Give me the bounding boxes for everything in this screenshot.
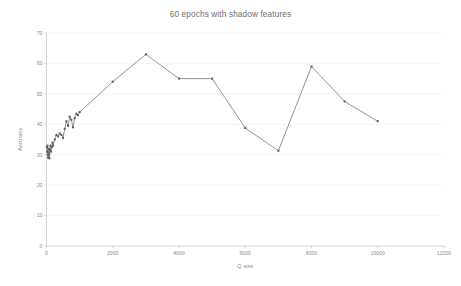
y-axis-tick-label: 20 bbox=[37, 182, 43, 188]
y-axis-ticks-group: 010203040506070 bbox=[37, 30, 47, 249]
data-point-marker bbox=[48, 154, 50, 156]
data-point-marker bbox=[72, 126, 74, 128]
y-axis-tick-label: 60 bbox=[37, 60, 43, 66]
data-point-marker bbox=[70, 119, 72, 121]
x-axis-tick-label: 0 bbox=[45, 250, 48, 256]
y-axis-tick-label: 30 bbox=[37, 152, 43, 158]
data-point-marker bbox=[377, 120, 379, 122]
x-axis-ticks-group: 020004000600080001000012000 bbox=[45, 246, 451, 256]
data-series-line bbox=[47, 54, 378, 158]
data-point-marker bbox=[52, 145, 54, 147]
gridlines-group bbox=[47, 33, 445, 216]
data-point-marker bbox=[112, 81, 114, 83]
data-point-marker bbox=[57, 135, 59, 137]
data-point-marker bbox=[50, 151, 52, 153]
data-point-marker bbox=[69, 116, 71, 118]
data-point-marker bbox=[211, 78, 213, 80]
x-axis-tick-label: 2000 bbox=[107, 250, 119, 256]
data-series-markers bbox=[46, 53, 379, 159]
data-point-marker bbox=[79, 111, 81, 113]
x-axis-title: Q size bbox=[237, 263, 253, 269]
data-point-marker bbox=[51, 142, 53, 144]
data-point-marker bbox=[64, 128, 66, 130]
data-point-marker bbox=[62, 137, 64, 139]
data-point-marker bbox=[178, 78, 180, 80]
data-point-marker bbox=[60, 134, 62, 136]
axis-lines-group bbox=[47, 33, 445, 246]
data-point-marker bbox=[48, 157, 50, 159]
x-axis-tick-label: 8000 bbox=[306, 250, 318, 256]
data-point-marker bbox=[54, 139, 56, 141]
data-point-marker bbox=[311, 65, 313, 67]
data-point-marker bbox=[145, 53, 147, 55]
data-point-marker bbox=[67, 125, 69, 127]
data-point-marker bbox=[46, 145, 48, 147]
x-axis-tick-label: 6000 bbox=[239, 250, 251, 256]
y-axis-title: Accuracy bbox=[17, 128, 23, 151]
chart-plot-area: 010203040506070 020004000600080001000012… bbox=[0, 0, 461, 286]
x-axis-tick-label: 12000 bbox=[437, 250, 452, 256]
x-axis-tick-label: 4000 bbox=[173, 250, 185, 256]
data-point-marker bbox=[344, 100, 346, 102]
y-axis-tick-label: 10 bbox=[37, 212, 43, 218]
data-point-marker bbox=[244, 127, 246, 129]
y-axis-tick-label: 50 bbox=[37, 91, 43, 97]
y-axis-tick-label: 40 bbox=[37, 121, 43, 127]
x-axis-tick-label: 10000 bbox=[371, 250, 386, 256]
y-axis-tick-label: 0 bbox=[40, 243, 43, 249]
data-point-marker bbox=[65, 120, 67, 122]
chart-container: 60 epochs with shadow features 010203040… bbox=[0, 0, 461, 286]
y-axis-tick-label: 70 bbox=[37, 30, 43, 36]
series-polyline bbox=[47, 54, 378, 158]
data-point-marker bbox=[74, 117, 76, 119]
data-point-marker bbox=[77, 114, 79, 116]
data-point-marker bbox=[277, 150, 279, 152]
